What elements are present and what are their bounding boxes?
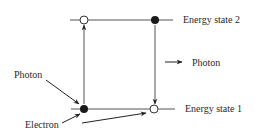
absorbed-photon-label: Photon <box>14 69 42 80</box>
empty-state-1-circle <box>150 105 158 113</box>
energy-state-2-label: Energy state 2 <box>183 14 240 25</box>
energy-state-1-label: Energy state 1 <box>185 103 242 114</box>
emitted-photon-label: Photon <box>192 57 220 68</box>
electron-state-2-dot <box>151 16 159 24</box>
electron-state-1-dot <box>80 105 88 113</box>
electron-pointer-arrow <box>62 114 80 123</box>
photon-pointer-arrow <box>46 80 79 104</box>
empty-state-2-circle <box>80 16 88 24</box>
electron-pointer-arrow-2 <box>82 113 146 123</box>
electron-label: Electron <box>25 119 59 130</box>
energy-level-diagram: Energy state 2 Energy state 1 Photon Pho… <box>0 0 260 136</box>
